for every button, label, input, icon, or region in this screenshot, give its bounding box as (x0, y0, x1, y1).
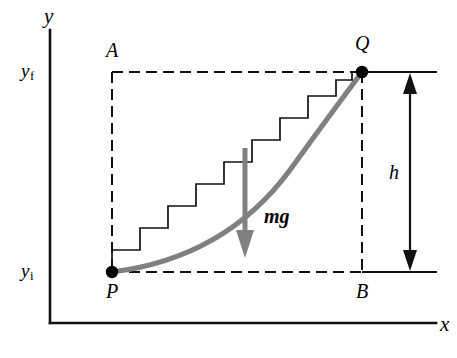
y-tick-initial-base: y (21, 260, 29, 281)
corner-label-B: B (356, 281, 368, 301)
point-label-Q: Q (355, 33, 369, 53)
force-label-mg: mg (264, 206, 290, 226)
height-dimension-group (362, 72, 437, 272)
physics-diagram-figure: y x yf yi A Q P B mg h (0, 0, 457, 358)
height-label-h: h (389, 162, 399, 182)
height-arrow-head-up (403, 73, 417, 94)
reference-rectangle-group (112, 72, 362, 272)
force-arrow-mg (236, 148, 254, 258)
x-axis-label: x (440, 314, 449, 335)
y-tick-label-initial: yi (21, 261, 34, 283)
curved-path-P-to-Q (112, 72, 362, 272)
height-arrow-head-down (403, 250, 417, 271)
y-tick-label-final: yf (21, 61, 34, 83)
corner-label-A: A (106, 40, 118, 60)
point-marker-P (106, 266, 118, 278)
y-tick-final-base: y (21, 60, 29, 81)
staircase-approximation-path (112, 72, 362, 272)
y-axis-label: y (44, 6, 53, 27)
y-tick-final-subscript: f (30, 68, 34, 83)
force-arrow-head (236, 230, 254, 258)
point-label-P: P (106, 281, 118, 301)
y-tick-initial-subscript: i (30, 268, 34, 283)
